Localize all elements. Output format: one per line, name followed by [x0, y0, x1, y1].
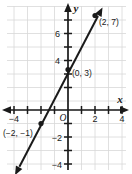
point-marker-neg2-neg1[interactable]	[38, 121, 43, 126]
y-tick-label-6: 6	[55, 29, 60, 39]
plotted-line-arrow-down-icon	[15, 166, 22, 174]
graph-canvas: −4 2 4 6 4 −2 −4 O x y (2, 7) (0, 3) (−2…	[0, 0, 132, 174]
y-axis-label: y	[72, 2, 79, 14]
y-axis-arrow-up-icon	[64, 3, 72, 12]
x-tick-label-neg4: −4	[9, 114, 19, 124]
origin-label: O	[60, 113, 67, 123]
tick-labels: −4 2 4 6 4 −2 −4 O	[9, 29, 125, 170]
x-axis-arrow-left-icon	[2, 106, 11, 114]
point-label-2-7: (2, 7)	[99, 17, 119, 27]
axes	[2, 3, 129, 170]
x-tick-label-4: 4	[119, 114, 124, 124]
point-label-0-3: (0, 3)	[72, 68, 92, 78]
x-axis-label: x	[116, 93, 123, 105]
y-tick-label-neg2: −2	[52, 133, 62, 143]
y-tick-label-neg4: −4	[52, 160, 62, 170]
point-label-neg2-neg1: (−2, −1)	[3, 128, 33, 138]
point-marker-2-7[interactable]	[92, 13, 97, 18]
point-marker-0-3[interactable]	[65, 67, 70, 72]
coordinate-plane-figure: −4 2 4 6 4 −2 −4 O x y (2, 7) (0, 3) (−2…	[0, 0, 132, 174]
y-tick-label-4: 4	[55, 56, 60, 66]
x-tick-label-2: 2	[92, 114, 97, 124]
